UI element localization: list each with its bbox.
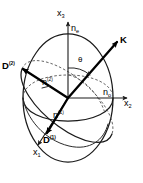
n1-sup: (1) [58, 110, 64, 115]
K-text: K [120, 34, 127, 45]
svg-text:x1: x1 [33, 147, 41, 158]
svg-text:n(1): n(1) [53, 110, 64, 120]
svg-text:ne: ne [71, 23, 79, 34]
indicatrix-figure: x3 x2 x1 ne no [0, 0, 143, 183]
n2-sup: (2) [47, 77, 53, 82]
axis-label-x2: x2 [124, 98, 132, 109]
axis-label-x3: x3 [57, 8, 65, 19]
vector-label-D2: D(2) [2, 60, 15, 71]
D2-sup: (2) [9, 61, 15, 66]
axis-x3-sub: 3 [62, 13, 65, 19]
indicatrix-svg: x3 x2 x1 ne no [0, 0, 143, 183]
D1-sup: (1) [50, 135, 56, 140]
index-label-ne: ne [71, 23, 79, 34]
vector-label-D1: D(1) [43, 134, 56, 145]
vector-label-K: K [120, 34, 127, 45]
theta-text: θ [78, 55, 83, 64]
axis-label-x1: x1 [33, 147, 41, 158]
svg-text:D(1): D(1) [43, 134, 56, 145]
index-label-n1: n(1) [53, 110, 64, 120]
axis-x2-sub: 2 [129, 103, 132, 109]
axis-x1-sub: 1 [38, 152, 41, 158]
ne-sub: e [76, 28, 79, 34]
svg-text:x2: x2 [124, 98, 132, 109]
index-label-no: no [103, 87, 111, 98]
vector-K [68, 42, 117, 98]
lower-section-curve [23, 75, 108, 147]
angle-label-theta: θ [78, 55, 83, 64]
svg-text:x3: x3 [57, 8, 65, 19]
no-sub: o [108, 92, 111, 98]
svg-text:D(2): D(2) [2, 60, 15, 71]
svg-text:no: no [103, 87, 111, 98]
